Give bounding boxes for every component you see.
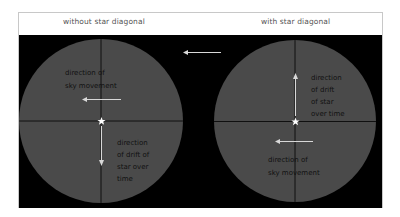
right-field-of-view: direction of drift of star over time dir… bbox=[214, 40, 376, 202]
right-drift-label-line-1: direction bbox=[311, 74, 342, 82]
star-drift-diagram: without star diagonal with star diagonal bbox=[0, 0, 400, 217]
left-drift-label-line-2: of drift of bbox=[117, 151, 150, 159]
right-drift-label-line-3: of star bbox=[311, 98, 334, 106]
left-field-of-view: direction of sky movement direction of d… bbox=[19, 39, 183, 203]
right-drift-label-line-2: of drift bbox=[311, 86, 335, 94]
diagram-graphics: direction of sky movement direction of d… bbox=[0, 0, 400, 217]
center-sky-arrow-icon bbox=[183, 50, 221, 55]
right-sky-label-line-1: direction of bbox=[268, 156, 308, 164]
left-drift-label-line-4: time bbox=[117, 175, 133, 183]
left-drift-label-line-3: star over bbox=[117, 163, 149, 171]
left-sky-label-line-2: sky movement bbox=[65, 82, 117, 90]
left-drift-label-line-1: direction bbox=[117, 139, 148, 147]
right-sky-label-line-2: sky movement bbox=[268, 169, 320, 177]
left-sky-label-line-1: direction of bbox=[65, 69, 105, 77]
right-drift-label-line-4: over time bbox=[311, 110, 345, 118]
